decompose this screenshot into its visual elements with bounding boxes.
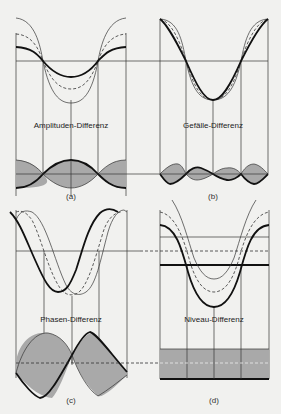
- panel-b-title: Gefälle-Differenz: [183, 121, 243, 130]
- panel-a: Amplituden-Differenz (a): [16, 18, 140, 201]
- panel-c-title: Phasen-Differenz: [40, 315, 102, 324]
- curve-thin: [16, 18, 126, 103]
- panel-a-title: Amplituden-Differenz: [34, 121, 109, 130]
- curve-thin: [172, 200, 256, 279]
- panel-c-caption: (c): [66, 396, 76, 405]
- curve-dashed: [160, 19, 268, 100]
- panel-a-caption: (a): [66, 192, 76, 201]
- curve-thick: [16, 47, 126, 77]
- panel-c: Phasen-Differenz (c): [10, 209, 140, 405]
- panel-b-caption: (b): [208, 192, 218, 201]
- panel-b: Gefälle-Differenz (b): [140, 19, 268, 201]
- panel-d-caption: (d): [209, 396, 219, 405]
- curve-thick: [160, 19, 268, 100]
- figure-diagram: Amplituden-Differenz (a) Gefälle-Differe…: [0, 0, 281, 414]
- curve-dashed: [160, 212, 269, 292]
- curve-thin: [160, 19, 268, 100]
- curve-thick: [10, 209, 118, 292]
- curve-dashed: [16, 34, 126, 89]
- panel-d-title: Niveau-Differenz: [184, 315, 243, 324]
- panel-d: Niveau-Differenz (d): [140, 200, 269, 405]
